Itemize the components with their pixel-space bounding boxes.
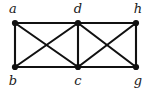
vertex-label-a: a [9,1,17,16]
graph-figure: adhbcg [0,0,148,89]
graph-vertex [12,20,18,26]
edge-layer [15,23,136,67]
vertex-label-g: g [134,73,142,88]
graph-vertex [133,64,139,70]
label-layer: adhbcg [9,1,142,88]
graph-vertex [12,64,18,70]
graph-vertex [133,20,139,26]
vertex-layer [12,20,139,70]
vertex-label-h: h [134,1,142,16]
vertex-label-d: d [74,1,82,16]
vertex-label-c: c [74,73,82,88]
graph-vertex [75,64,81,70]
vertex-label-b: b [9,73,17,88]
graph-canvas: adhbcg [0,0,148,89]
graph-vertex [75,20,81,26]
